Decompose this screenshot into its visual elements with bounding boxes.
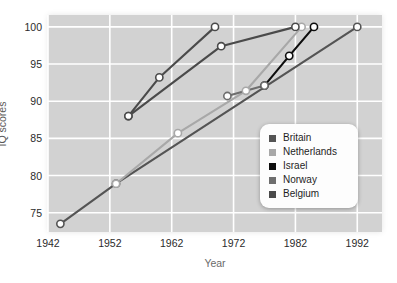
data-point-marker [354,23,361,30]
y-axis-tick-label: 75 [0,207,42,218]
data-point-marker [218,43,225,50]
legend-swatch-icon [269,191,276,198]
data-point-marker [174,130,181,137]
x-axis-tick-label: 1962 [160,238,183,249]
data-point-marker [57,220,64,227]
data-point-marker [292,23,299,30]
x-axis-tick-label: 1952 [98,238,121,249]
legend-label: Norway [283,175,317,185]
series-line-belgium [128,27,215,116]
legend-swatch-icon [269,177,276,184]
legend-item-israel[interactable]: Israel [269,159,350,173]
legend-label: Britain [283,133,311,143]
chart-legend: BritainNetherlandsIsraelNorwayBelgium [260,124,358,208]
x-axis-tick-label: 1992 [346,238,369,249]
data-point-marker [286,52,293,59]
legend-swatch-icon [269,149,276,156]
data-point-marker [112,180,119,187]
legend-label: Belgium [283,189,319,199]
data-point-marker [224,92,231,99]
x-axis-tick-label: 1982 [284,238,307,249]
y-axis-title: IQ scores [0,102,8,147]
data-point-marker [156,74,163,81]
legend-label: Israel [283,161,307,171]
chart-figure: 7580859095100 194219521962197219821992 I… [0,0,397,283]
legend-swatch-icon [269,135,276,142]
data-point-marker [242,87,249,94]
y-axis-tick-label: 100 [0,22,42,33]
data-point-marker [211,23,218,30]
legend-item-britain[interactable]: Britain [269,131,350,145]
y-axis-tick-label: 80 [0,170,42,181]
legend-item-belgium[interactable]: Belgium [269,187,350,201]
legend-item-netherlands[interactable]: Netherlands [269,145,350,159]
x-axis-title: Year [204,257,225,269]
data-point-marker [261,82,268,89]
data-point-marker [125,112,132,119]
legend-item-norway[interactable]: Norway [269,173,350,187]
x-axis-tick-label: 1942 [36,238,59,249]
y-axis-tick-label: 95 [0,59,42,70]
series-line-belgium-second [128,27,295,116]
legend-label: Netherlands [283,147,337,157]
x-axis-tick-label: 1972 [222,238,245,249]
legend-swatch-icon [269,163,276,170]
data-point-marker [310,23,317,30]
